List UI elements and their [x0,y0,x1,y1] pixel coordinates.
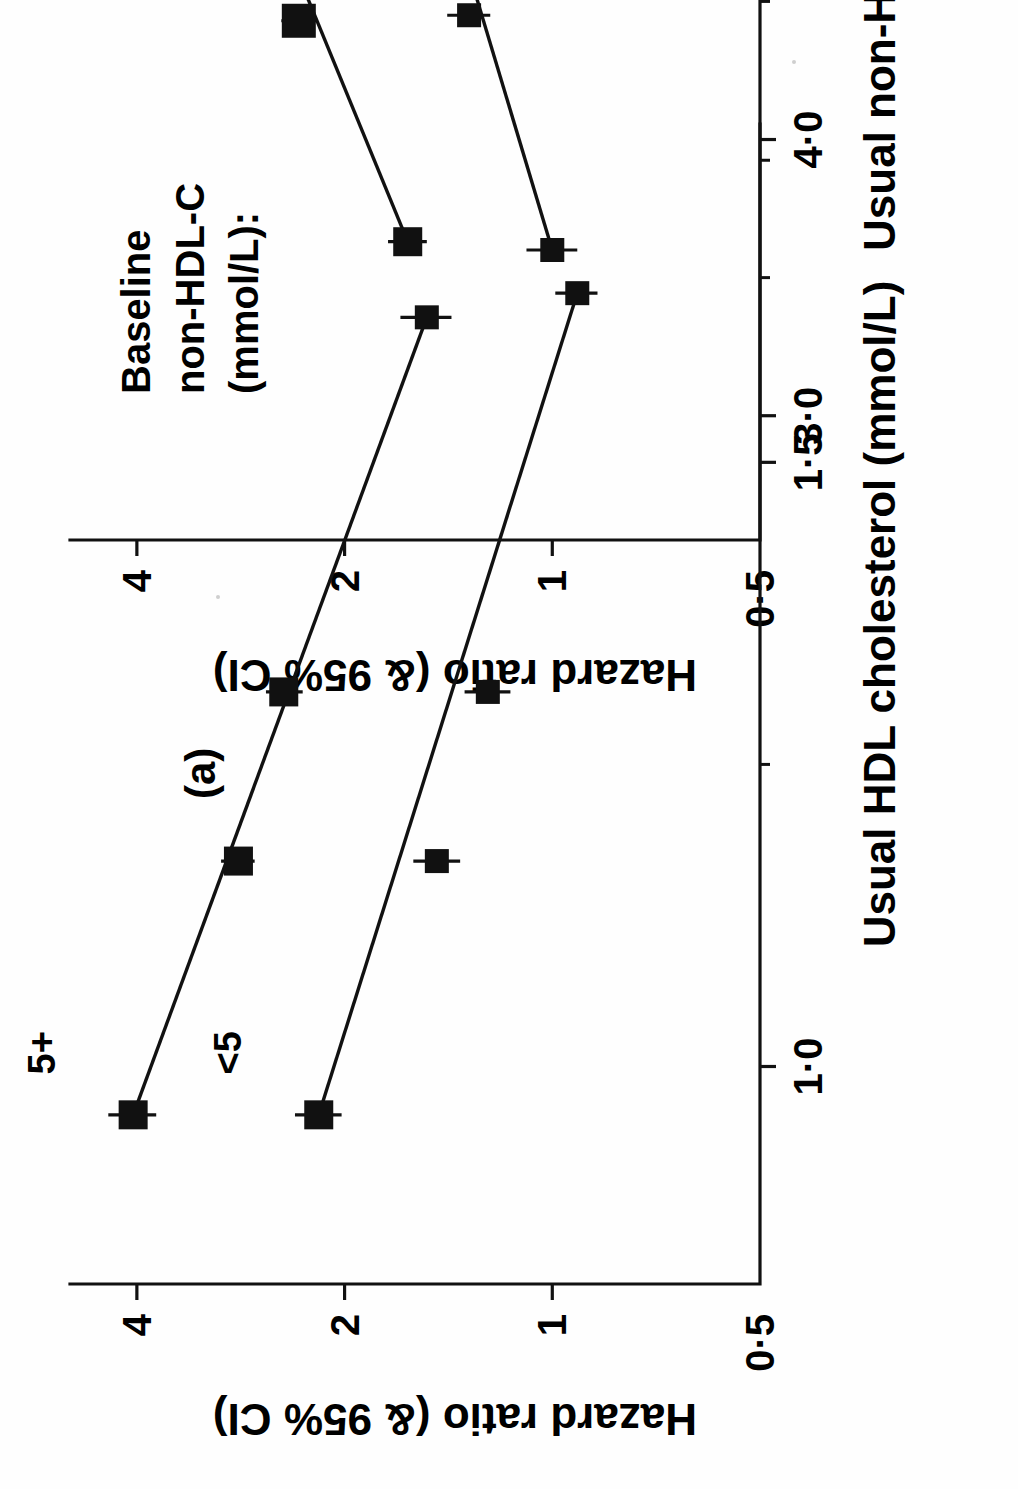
y-tick-label: 1 [530,1314,574,1336]
scan-speck [792,60,796,64]
data-point-marker [565,281,589,305]
figure-page: 3·04·05·06·00·5124Usual non-HDL choleste… [0,0,1018,1489]
series-fit-line [133,317,427,1115]
y-axis-title: Hazard ratio (& 95% CI) [213,1395,697,1444]
data-point-marker [457,3,481,27]
data-point-marker [476,680,500,704]
data-point-marker [282,4,316,38]
data-point-marker [224,847,253,876]
data-point-marker [425,849,449,873]
x-tick-label: 1·0 [786,1038,830,1096]
panel-a: 1·01·50·5124Usual HDL cholesterol (mmol/… [0,89,940,1489]
series-label: <5 [207,1031,249,1074]
series-label: 5+ [21,1031,63,1074]
data-point-marker [119,1100,148,1129]
data-point-marker [415,305,439,329]
y-tick-label: 0·5 [738,1314,782,1372]
data-point-marker [304,1100,333,1129]
x-axis-title: Usual HDL cholesterol (mmol/L) [855,281,904,948]
x-tick-label: 1·5 [786,433,830,491]
legend-title-line: Baseline [114,229,158,394]
panel-a-plot: 1·01·50·5124Usual HDL cholesterol (mmol/… [0,89,940,1489]
legend-title-line: non-HDL-C [168,183,212,394]
y-tick-label: 4 [115,1313,159,1336]
scan-speck [216,595,220,599]
legend-title-line: (mmol/L): [222,212,266,394]
data-point-marker [269,677,298,706]
panel-label: (a) [177,748,224,799]
y-tick-label: 2 [323,1314,367,1336]
series-fit-line [319,293,578,1115]
